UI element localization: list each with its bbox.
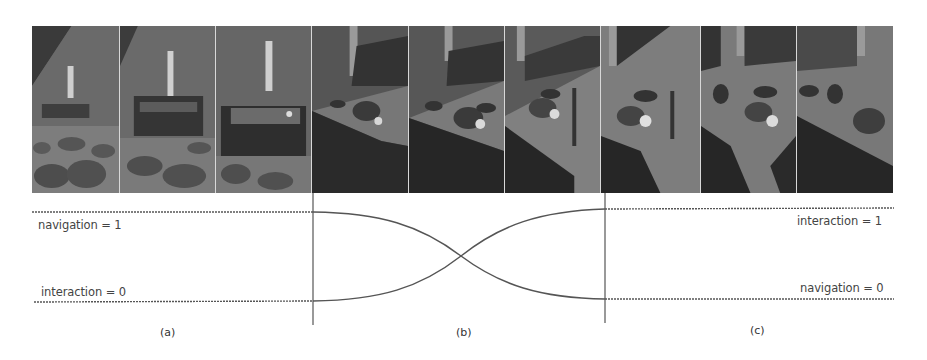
navigation-weight-curve: [313, 212, 605, 299]
interaction-zero-level-line: [34, 301, 313, 302]
label-navigation-one: navigation = 1: [38, 218, 122, 232]
weight-curves-plot: [0, 0, 927, 360]
label-navigation-zero: navigation = 0: [800, 281, 884, 295]
label-interaction-zero: interaction = 0: [41, 285, 126, 299]
phase-label-b: (b): [456, 326, 472, 339]
phase-label-a: (a): [160, 326, 175, 339]
label-interaction-one: interaction = 1: [797, 214, 882, 228]
interaction-one-level-line: [605, 208, 894, 209]
phase-label-c: (c): [750, 324, 765, 337]
